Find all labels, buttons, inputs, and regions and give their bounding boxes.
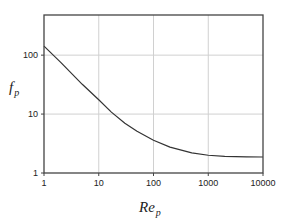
y-tick-label: 10 <box>28 109 38 119</box>
gridlines <box>44 15 263 173</box>
y-tick-label: 100 <box>23 50 38 60</box>
x-tick-label: 1 <box>41 178 46 188</box>
x-tick-label: 10000 <box>250 178 275 188</box>
chart: 110100100010000 110100 fp Rep <box>0 0 288 224</box>
x-axis-label: Rep <box>138 199 161 218</box>
y-tick-label: 1 <box>33 168 38 178</box>
x-tick-label: 10 <box>94 178 104 188</box>
x-axis-ticks: 110100100010000 <box>41 173 275 188</box>
y-axis-ticks: 110100 <box>23 50 44 178</box>
x-tick-label: 1000 <box>198 178 218 188</box>
x-tick-label: 100 <box>146 178 161 188</box>
y-axis-label: fp <box>9 79 19 98</box>
